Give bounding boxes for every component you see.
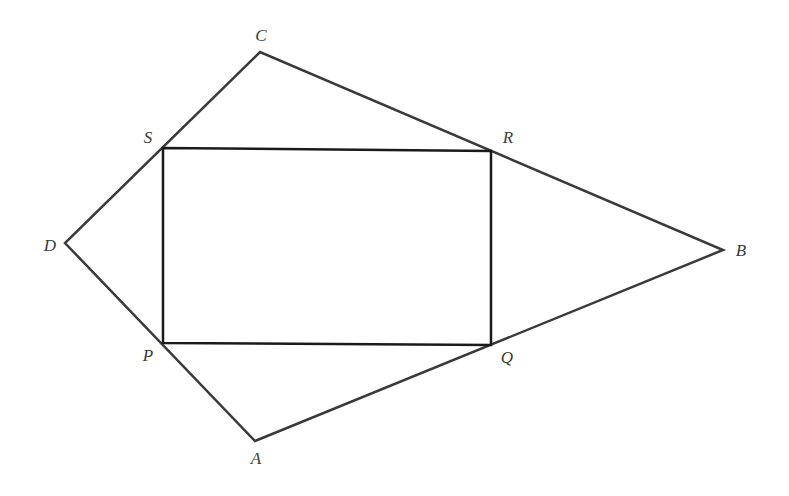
- vertex-label-s: S: [144, 129, 153, 146]
- vertex-label-c: C: [255, 27, 266, 44]
- vertex-label-q: Q: [501, 349, 513, 366]
- rectangle-pqrs: [163, 148, 491, 345]
- vertex-label-r: R: [503, 129, 513, 146]
- vertex-label-p: P: [143, 347, 153, 364]
- vertex-label-a: A: [251, 450, 261, 467]
- vertex-label-b: B: [736, 242, 746, 259]
- vertex-label-d: D: [44, 237, 56, 254]
- diagram-svg: [0, 0, 789, 496]
- geometry-diagram: A B C D P Q R S: [0, 0, 789, 496]
